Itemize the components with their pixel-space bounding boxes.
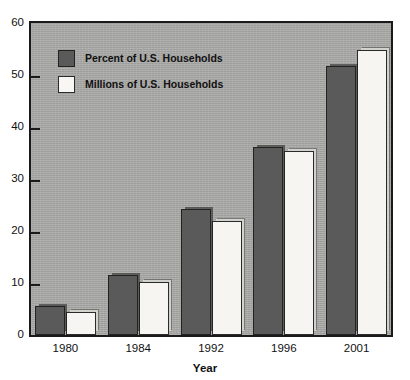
- bar-1992-series1: [181, 209, 211, 335]
- plot-area: Percent of U.S. Households Millions of U…: [29, 21, 393, 337]
- y-axis-tick-label: 30: [0, 173, 24, 185]
- x-axis-tick-label: 1992: [181, 343, 241, 355]
- x-axis-tick-label: 1980: [35, 343, 95, 355]
- bar-1992-series2: [212, 221, 242, 335]
- y-axis-tick: [31, 180, 40, 182]
- legend-label-millions: Millions of U.S. Households: [85, 79, 223, 90]
- y-axis-tick-label: 10: [0, 277, 24, 289]
- legend-swatch-percent-icon: [58, 50, 75, 67]
- y-axis-tick-label: 20: [0, 225, 24, 237]
- legend-swatch-millions-icon: [58, 76, 75, 93]
- x-axis-tick-label: 2001: [327, 343, 387, 355]
- y-axis-tick-label: 40: [0, 121, 24, 133]
- bar-chart-figure: 0102030405060 Percent of U.S. Households…: [0, 0, 410, 380]
- chart-legend: Percent of U.S. Households Millions of U…: [58, 50, 223, 102]
- bar-1980-series2: [66, 312, 96, 335]
- bar-1980-series1: [35, 306, 65, 335]
- y-axis-tick-label: 60: [0, 17, 24, 29]
- y-axis-tick-label: 50: [0, 69, 24, 81]
- legend-item-percent: Percent of U.S. Households: [58, 50, 223, 67]
- bar-1984-series1: [108, 275, 138, 335]
- bar-1996-series2: [284, 151, 314, 335]
- y-axis-tick: [31, 128, 40, 130]
- bar-1984-series2: [139, 282, 169, 335]
- legend-label-percent: Percent of U.S. Households: [85, 53, 223, 64]
- y-axis-tick: [31, 232, 40, 234]
- y-axis-tick-label: 0: [0, 329, 24, 341]
- legend-item-millions: Millions of U.S. Households: [58, 76, 223, 93]
- bar-1996-series1: [253, 147, 283, 335]
- x-axis-tick-label: 1996: [254, 343, 314, 355]
- y-axis-tick: [31, 284, 40, 286]
- x-axis-tick-label: 1984: [108, 343, 168, 355]
- y-axis-tick: [31, 76, 40, 78]
- bar-2001-series2: [357, 50, 387, 335]
- bar-2001-series1: [326, 66, 356, 335]
- x-axis-title: Year: [0, 363, 410, 375]
